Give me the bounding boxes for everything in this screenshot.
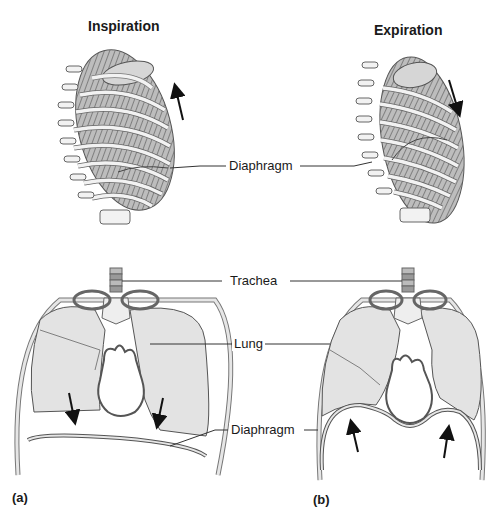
arrow-up-icon [444,432,448,458]
panel-label-b: (b) [313,492,330,507]
lung-left-a [31,307,105,412]
arrow-up-icon [352,426,358,452]
arrow-up-icon [176,90,183,120]
ribcage-inspiration [58,39,191,224]
thorax-expiration [319,268,483,480]
trachea-b [402,268,414,292]
thorax-inspiration [17,268,231,475]
heart-a [98,345,144,416]
ribcage-expiration [356,50,476,229]
lung-right-a [130,308,209,436]
panel-label-a: (a) [12,490,28,505]
title-expiration: Expiration [374,22,442,38]
label-diaphragm-bottom: Diaphragm [229,423,297,437]
title-inspiration: Inspiration [88,18,160,34]
respiration-diagram [0,0,500,518]
label-diaphragm-top: Diaphragm [227,159,295,173]
trachea-a [110,268,122,292]
label-lung: Lung [232,337,265,351]
heart-b [386,355,432,423]
label-trachea: Trachea [228,274,279,288]
